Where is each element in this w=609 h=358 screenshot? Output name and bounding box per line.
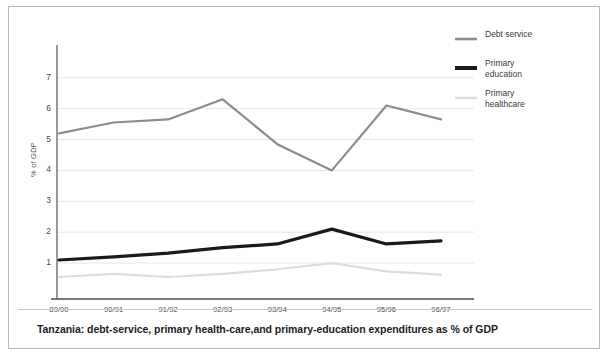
legend-label-debt-service: Debt service [485, 29, 595, 40]
legend-swatch-debt-service [455, 34, 477, 44]
legend-swatch-primary-education [455, 63, 477, 73]
y-tick-label: 5 [35, 134, 51, 144]
legend-swatch-primary-healthcare [455, 93, 477, 103]
chart-plot-region: % of GDP 1234567 89/9090/9191/9292/9393/… [9, 7, 601, 350]
figure-frame: % of GDP 1234567 89/9090/9191/9292/9393/… [8, 6, 600, 349]
y-tick-label: 4 [35, 164, 51, 174]
legend-label-primary-healthcare: Primary healthcare [485, 88, 595, 109]
screenshot-root: % of GDP 1234567 89/9090/9191/9292/9393/… [0, 0, 609, 358]
series-line-primary-education [59, 229, 441, 260]
y-tick-label: 1 [35, 257, 51, 267]
gridlines [57, 78, 474, 263]
legend-entry-primary-healthcare[interactable]: Primary healthcare [455, 88, 595, 109]
y-tick-label: 6 [35, 103, 51, 113]
series-line-primary-healthcare [59, 263, 441, 277]
y-tick-label: 7 [35, 72, 51, 82]
legend-entry-primary-education[interactable]: Primary education [455, 58, 595, 79]
y-tick-label: 2 [35, 226, 51, 236]
legend-entry-debt-service[interactable]: Debt service [455, 29, 595, 49]
axis-lines [51, 45, 474, 299]
figure-caption: Tanzania: debt-service, primary health-c… [37, 323, 577, 335]
legend-label-primary-education: Primary education [485, 58, 595, 79]
chart-legend: Debt service Primary education Primary h… [455, 29, 595, 118]
series-line-debt-service [59, 99, 441, 170]
series-lines [59, 99, 441, 277]
y-tick-label: 3 [35, 195, 51, 205]
caption-divider [18, 309, 592, 310]
